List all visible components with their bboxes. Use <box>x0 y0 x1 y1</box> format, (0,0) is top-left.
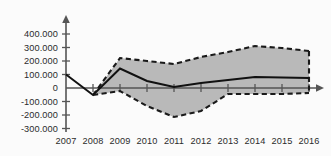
y-tick-label: 200.000 <box>24 56 58 66</box>
y-axis-arrow <box>62 15 70 23</box>
y-tick-label: 400.000 <box>24 29 58 39</box>
x-tick-label: 2011 <box>164 136 184 146</box>
x-tick-label: 2010 <box>137 136 158 146</box>
y-tick-label: -100.000 <box>21 97 58 107</box>
x-tick-label: 2013 <box>218 136 239 146</box>
y-tick-label: -300.000 <box>21 124 58 134</box>
y-tick-label: 100.000 <box>24 70 58 80</box>
x-tick-label: 2015 <box>272 136 293 146</box>
forecast-fan-chart: 400.000 300.000 200.000 100.000 0 -100.0… <box>0 0 331 156</box>
x-tick-label: 2012 <box>191 136 212 146</box>
x-tick-label: 2016 <box>299 136 320 146</box>
confidence-band-area <box>93 46 309 117</box>
y-tick-label: 300.000 <box>24 43 58 53</box>
x-tick-label: 2007 <box>56 136 77 146</box>
y-axis-tick-labels: 400.000 300.000 200.000 100.000 0 -100.0… <box>21 29 58 134</box>
chart-canvas: 400.000 300.000 200.000 100.000 0 -100.0… <box>0 0 331 156</box>
x-axis-tick-labels: 2007 2008 2009 2010 2011 2012 2013 2014 … <box>56 136 320 146</box>
x-tick-label: 2008 <box>83 136 104 146</box>
x-axis-arrow <box>316 84 324 92</box>
y-tick-label: 0 <box>53 83 58 93</box>
x-tick-label: 2009 <box>110 136 131 146</box>
x-tick-label: 2014 <box>245 136 266 146</box>
y-tick-label: -200.000 <box>21 110 58 120</box>
